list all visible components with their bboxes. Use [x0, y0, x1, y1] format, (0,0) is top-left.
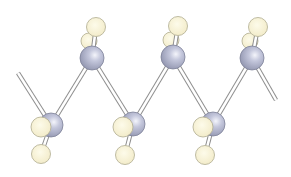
carbon-atom: [240, 46, 264, 70]
carbon-atom: [80, 46, 104, 70]
hydrogen-atom: [32, 145, 51, 164]
hydrogen-atom: [113, 117, 133, 137]
ball-and-stick-model: [0, 0, 291, 177]
hydrogen-atom: [116, 146, 135, 165]
hydrogen-atom: [87, 18, 106, 37]
hydrogen-atom: [196, 146, 215, 165]
hydrogen-atom: [249, 18, 268, 37]
hydrogen-atom: [193, 117, 213, 137]
hydrogen-atom: [31, 117, 51, 137]
molecule-diagram: [0, 0, 291, 177]
carbon-atom: [161, 45, 185, 69]
hydrogen-atom: [169, 17, 188, 36]
